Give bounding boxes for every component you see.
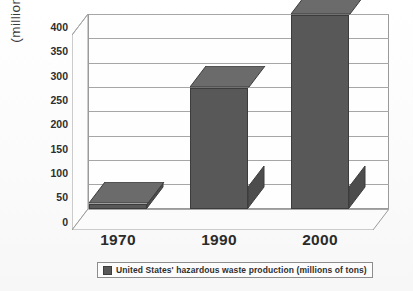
x-axis-tick-labels: 1970 1990 2000 <box>72 231 402 253</box>
x-axis-tick-label: 2000 <box>285 231 355 249</box>
y-axis-title: (millions of tonnes) <box>8 0 30 72</box>
legend-item-label: United States' hazardous waste productio… <box>116 265 367 275</box>
x-axis-tick-label: 1970 <box>83 231 153 249</box>
bar-1970[interactable] <box>89 204 147 209</box>
bar-chart: (millions of tonnes) 400 350 300 250 200… <box>0 0 413 291</box>
square-swatch-icon <box>103 266 112 275</box>
y-axis-tick-label: 200 <box>34 119 68 130</box>
y-axis-tick-label: 400 <box>34 22 68 33</box>
bar-side-face <box>349 0 366 209</box>
bar-top-face <box>190 66 266 88</box>
bar-front-face <box>89 204 147 209</box>
y-axis-tick-label: 50 <box>34 192 68 203</box>
y-axis-tick-label: 0 <box>34 217 68 228</box>
y-axis-tick-labels: 400 350 300 250 200 150 100 50 0 <box>30 14 68 230</box>
x-axis-tick-label: 1990 <box>184 231 254 249</box>
y-axis-tick-label: 300 <box>34 71 68 82</box>
y-axis-tick-label: 350 <box>34 46 68 57</box>
y-axis-tick-label: 250 <box>34 95 68 106</box>
bar-top-face <box>89 182 165 204</box>
plot-area <box>72 14 389 230</box>
bar-front-face <box>291 15 349 209</box>
bar-front-face <box>190 88 248 209</box>
bar-1990[interactable] <box>190 88 248 209</box>
y-axis-tick-label: 100 <box>34 168 68 179</box>
bar-series <box>72 14 389 230</box>
y-axis-tick-label: 150 <box>34 144 68 155</box>
chart-legend[interactable]: United States' hazardous waste productio… <box>97 262 373 278</box>
bar-top-face <box>291 0 367 15</box>
bar-2000[interactable] <box>291 15 349 209</box>
